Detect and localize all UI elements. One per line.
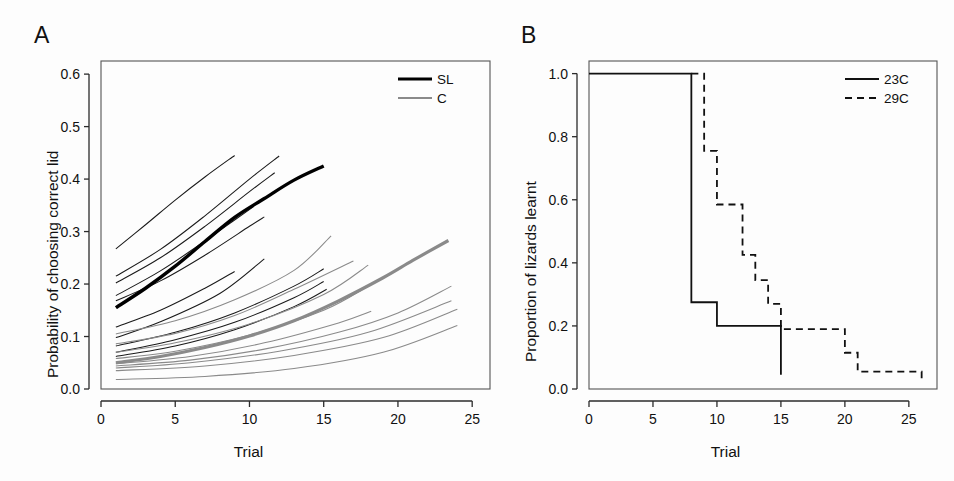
y-tick-label: 0.2 bbox=[549, 318, 569, 334]
y-tick-label: 0.6 bbox=[61, 66, 81, 82]
legend-label: 23C bbox=[884, 72, 909, 87]
mean-curves bbox=[116, 166, 449, 363]
x-tick-label: 5 bbox=[649, 411, 657, 427]
x-tick-label: 25 bbox=[464, 411, 480, 427]
plot-frame bbox=[589, 61, 937, 389]
y-tick-label: 0.8 bbox=[549, 129, 569, 145]
y-tick-label: 1.0 bbox=[549, 66, 569, 82]
individual-curve bbox=[116, 271, 235, 327]
mean-curves bbox=[589, 74, 922, 383]
step-curve-23C bbox=[589, 74, 781, 375]
individual-curve bbox=[116, 173, 275, 283]
panel-b-plot: 0.00.20.40.60.81.0051015202523C29C bbox=[497, 0, 954, 481]
y-tick-label: 0.0 bbox=[61, 381, 81, 397]
panel-a-plot: 0.00.10.20.30.40.50.60510152025SLC bbox=[0, 0, 497, 481]
y-tick-label: 0.5 bbox=[61, 119, 81, 135]
individual-curve bbox=[116, 155, 235, 248]
x-tick-label: 20 bbox=[390, 411, 406, 427]
legend-label: 29C bbox=[884, 91, 909, 106]
legend: 23C29C bbox=[845, 72, 909, 106]
individual-curves bbox=[116, 155, 457, 379]
x-tick-label: 10 bbox=[709, 411, 725, 427]
plot-frame bbox=[101, 61, 490, 389]
x-tick-label: 15 bbox=[773, 411, 789, 427]
y-tick-label: 0.4 bbox=[549, 255, 569, 271]
y-tick-label: 0.6 bbox=[549, 192, 569, 208]
figure-container: A Probability of choosing correct lid Tr… bbox=[0, 0, 954, 481]
individual-curve bbox=[116, 217, 264, 301]
y-tick-label: 0.2 bbox=[61, 276, 81, 292]
panel-b: B Proportion of lizards learnt Trial 0.0… bbox=[497, 0, 954, 481]
panel-a: A Probability of choosing correct lid Tr… bbox=[0, 0, 497, 481]
step-curve-29C bbox=[691, 74, 921, 383]
x-tick-label: 25 bbox=[901, 411, 917, 427]
y-tick-label: 0.3 bbox=[61, 224, 81, 240]
x-tick-label: 20 bbox=[837, 411, 853, 427]
x-tick-label: 5 bbox=[171, 411, 179, 427]
individual-curve bbox=[116, 156, 279, 276]
x-tick-label: 15 bbox=[316, 411, 332, 427]
legend-label: C bbox=[437, 91, 447, 106]
x-tick-label: 10 bbox=[242, 411, 258, 427]
individual-curve bbox=[116, 261, 354, 344]
x-tick-label: 0 bbox=[585, 411, 593, 427]
y-tick-label: 0.0 bbox=[549, 381, 569, 397]
legend-label: SL bbox=[437, 72, 454, 87]
legend: SLC bbox=[398, 72, 454, 106]
y-tick-label: 0.4 bbox=[61, 171, 81, 187]
y-tick-label: 0.1 bbox=[61, 329, 81, 345]
individual-curve bbox=[116, 281, 324, 352]
x-tick-label: 0 bbox=[97, 411, 105, 427]
